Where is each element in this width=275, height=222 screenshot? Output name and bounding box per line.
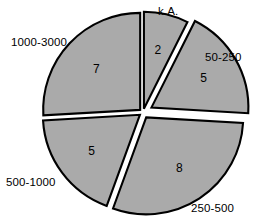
pie-category-label-500-1000: 500-1000 (6, 176, 55, 188)
pie-chart-canvas (0, 0, 275, 222)
pie-slice-1000-3000[interactable] (43, 13, 140, 116)
pie-value-label-1000-3000: 7 (93, 63, 100, 75)
pie-category-label-250-500: 250-500 (191, 202, 234, 214)
pie-category-label-ka: k.A. (158, 5, 178, 17)
pie-category-label-50-250: 50-250 (205, 51, 241, 63)
pie-slices-group (43, 12, 248, 215)
pie-category-label-1000-3000: 1000-3000 (11, 36, 67, 48)
pie-value-label-ka: 2 (154, 44, 161, 56)
pie-value-label-500-1000: 5 (88, 145, 95, 157)
pie-chart: 2 5 8 5 7 k.A. 50-250 250-500 500-1000 1… (0, 0, 275, 222)
pie-value-label-50-250: 5 (200, 72, 207, 84)
pie-value-label-250-500: 8 (176, 162, 183, 174)
